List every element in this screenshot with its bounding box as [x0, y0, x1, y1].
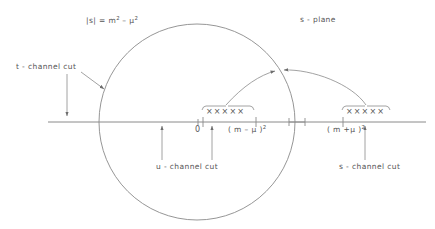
t-channel-cut-label: t - channel cut — [16, 63, 76, 71]
circle-modulus-prefix: |s| = m — [86, 16, 116, 25]
left-threshold-body: ( m – μ ) — [228, 125, 263, 134]
s-channel-cut-label: s - channel cut — [339, 163, 400, 171]
right-continuation-arc — [284, 70, 366, 105]
right-threshold-exp: 2 — [362, 124, 365, 130]
right-branch-cut-poles: ××××× — [346, 108, 385, 116]
origin-label: 0 — [195, 126, 200, 134]
left-continuation-arc — [226, 71, 275, 105]
t-channel-circle-arrow — [81, 72, 104, 89]
u-channel-cut-label: u - channel cut — [156, 163, 218, 171]
right-threshold-body: ( m +μ ) — [327, 125, 362, 134]
s-plane-label: s - plane — [300, 16, 336, 24]
circle-modulus-exp2: 2 — [134, 15, 137, 21]
right-threshold-label: ( m +μ )2 — [327, 126, 365, 134]
circle-modulus-label: |s| = m2 – μ2 — [86, 17, 138, 25]
mandelstam-s-plane-diagram: |s| = m2 – μ2 s - plane t - channel cut … — [0, 0, 435, 229]
left-threshold-label: ( m – μ )2 — [228, 126, 266, 134]
circle-modulus-middle: – μ — [120, 16, 135, 25]
left-branch-cut-poles: ××××× — [206, 108, 245, 116]
left-threshold-exp: 2 — [263, 124, 266, 130]
